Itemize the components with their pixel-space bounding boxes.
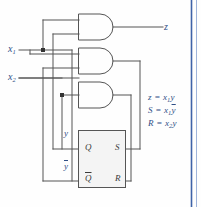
circuit-schematic-svg <box>0 0 201 207</box>
equation-s: S = x1y <box>148 105 176 116</box>
junction-dot-y <box>60 93 64 97</box>
latch-pin-Q: Q <box>85 142 92 152</box>
and-gate-s <box>79 48 113 74</box>
equation-r: R = x2y <box>148 118 177 129</box>
circuit-diagram-figure: x1 x2 z y y Q S Q R z = x1y S = x1y R = … <box>0 0 201 207</box>
feedback-label-y: y <box>64 128 68 138</box>
and-gate-z <box>79 14 113 40</box>
page-border-rules <box>192 0 197 207</box>
latch-pin-Qbar: Q <box>85 173 92 183</box>
equation-z: z = x1y <box>148 92 175 103</box>
feedback-label-ybar: y <box>64 161 68 171</box>
junction-dot-x1 <box>41 48 45 52</box>
and-gate-r <box>79 82 113 108</box>
latch-pin-R: R <box>115 173 121 183</box>
latch-pin-S: S <box>115 142 120 152</box>
output-label-z: z <box>164 21 168 32</box>
input-label-x2: x2 <box>8 71 16 83</box>
input-label-x1: x1 <box>8 43 16 55</box>
